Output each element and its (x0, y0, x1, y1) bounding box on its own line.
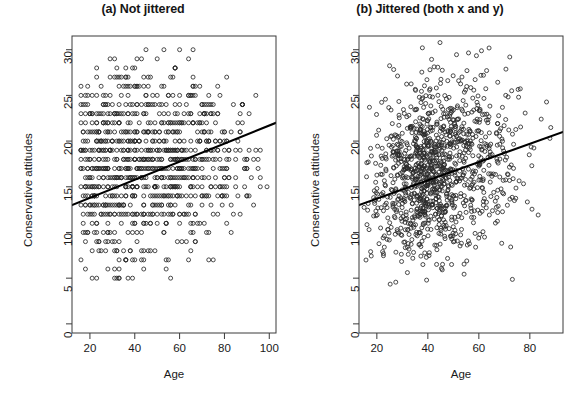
y-tick-label: 20 (62, 127, 74, 155)
y-tick-label: 0 (349, 310, 361, 338)
y-axis-label: Conservative attitudes (309, 133, 321, 247)
figure-container: (a) Not jittered 20406080100051015202530… (0, 0, 573, 399)
panel-jittered: (b) Jittered (both x and y) 204060800510… (287, 0, 573, 399)
y-tick-label: 20 (349, 127, 361, 155)
x-tick-label: 80 (510, 342, 550, 354)
panel-b-plot (287, 0, 573, 399)
y-tick-label: 25 (349, 81, 361, 109)
y-tick-label: 0 (62, 310, 74, 338)
y-tick-label: 5 (349, 264, 361, 292)
x-tick-label: 100 (249, 342, 289, 354)
x-tick-label: 40 (115, 342, 155, 354)
y-tick-label: 10 (62, 218, 74, 246)
y-tick-label: 15 (349, 173, 361, 201)
y-tick-label: 30 (349, 36, 361, 64)
y-axis-label: Conservative attitudes (22, 133, 34, 247)
x-tick-label: 60 (459, 342, 499, 354)
x-tick-label: 60 (160, 342, 200, 354)
y-tick-label: 10 (349, 218, 361, 246)
x-tick-label: 20 (70, 342, 110, 354)
panel-a-plot (0, 0, 286, 399)
x-tick-label: 80 (204, 342, 244, 354)
x-tick-label: 40 (408, 342, 448, 354)
y-tick-label: 25 (62, 81, 74, 109)
x-axis-label: Age (72, 368, 276, 380)
panel-not-jittered: (a) Not jittered 20406080100051015202530… (0, 0, 286, 399)
x-tick-label: 20 (357, 342, 397, 354)
x-axis-label: Age (359, 368, 563, 380)
y-tick-label: 15 (62, 173, 74, 201)
y-tick-label: 5 (62, 264, 74, 292)
y-tick-label: 30 (62, 36, 74, 64)
